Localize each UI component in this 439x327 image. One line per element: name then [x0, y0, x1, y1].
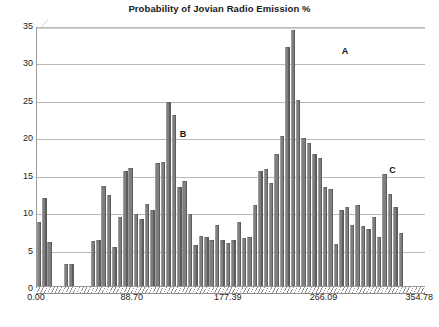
jovian-radio-emission-chart: Probability of Jovian Radio Emission % 0…: [0, 0, 439, 327]
bar: [291, 30, 296, 289]
bar: [101, 186, 106, 289]
bar-top-face: [389, 194, 393, 195]
plot-area: [36, 27, 425, 289]
bar: [264, 169, 269, 289]
bar: [226, 243, 231, 289]
bar: [42, 198, 47, 289]
bar: [318, 158, 323, 289]
bar-top-face: [238, 222, 242, 223]
bar: [182, 181, 187, 289]
bar-top-face: [308, 143, 312, 144]
bar-top-face: [265, 169, 269, 170]
bar: [328, 189, 333, 289]
bar: [307, 143, 312, 289]
bar: [377, 237, 382, 289]
bar: [134, 214, 139, 289]
bar: [112, 247, 117, 289]
bar: [350, 225, 355, 289]
x-axis-tick-label: 88.70: [121, 292, 144, 302]
bar: [177, 187, 182, 289]
bar-top-face: [243, 238, 247, 239]
bar-top-face: [38, 222, 42, 223]
bar: [399, 233, 404, 289]
bar: [150, 210, 155, 289]
bar-top-face: [351, 225, 355, 226]
bar-top-face: [113, 247, 117, 248]
bar-top-face: [302, 138, 306, 139]
bar-top-face: [140, 219, 144, 220]
bar-top-face: [297, 100, 301, 101]
bar-top-face: [340, 210, 344, 211]
bar: [372, 217, 377, 289]
bar: [242, 238, 247, 289]
y-axis-tick-label: 15: [3, 171, 33, 181]
x-axis-tick-label: 177.39: [214, 292, 242, 302]
bar: [253, 205, 258, 289]
y-axis-tick-label: 35: [3, 21, 33, 31]
bar-top-face: [281, 136, 285, 137]
bar: [269, 183, 274, 289]
bar-top-face: [129, 168, 133, 169]
bar: [188, 214, 193, 289]
bar-top-face: [156, 163, 160, 164]
bar: [215, 225, 220, 289]
bar: [334, 244, 339, 289]
bar-top-face: [162, 162, 166, 163]
bar-top-face: [221, 240, 225, 241]
bar: [285, 47, 290, 289]
bar: [301, 138, 306, 289]
bar-top-face: [119, 217, 123, 218]
x-axis-tick-label: 354.78: [406, 292, 434, 302]
bar-top-face: [183, 181, 187, 182]
bar-top-face: [216, 225, 220, 226]
peak-annotation-a: A: [342, 46, 349, 56]
bar-top-face: [378, 237, 382, 238]
bar-top-face: [108, 195, 112, 196]
bar-top-face: [43, 198, 47, 199]
bar: [123, 171, 128, 289]
bar-top-face: [97, 240, 101, 241]
bar-top-face: [65, 264, 69, 265]
bar: [339, 210, 344, 289]
bar-top-face: [48, 242, 52, 243]
bar-top-face: [178, 187, 182, 188]
bar: [361, 226, 366, 289]
peak-annotation-c: C: [389, 165, 396, 175]
bar: [237, 222, 242, 289]
bar-top-face: [189, 214, 193, 215]
bar: [199, 236, 204, 289]
bar: [355, 205, 360, 289]
bar-top-face: [227, 243, 231, 244]
bar-top-face: [286, 47, 290, 48]
bar-top-face: [92, 241, 96, 242]
bars-container: [36, 27, 425, 289]
bar-top-face: [319, 158, 323, 159]
bar-top-face: [292, 30, 296, 31]
bar: [312, 154, 317, 289]
bar: [345, 207, 350, 289]
bar-top-face: [394, 207, 398, 208]
y-axis-tick-label: 20: [3, 133, 33, 143]
bar-top-face: [346, 207, 350, 208]
bar-top-face: [275, 154, 279, 155]
bar: [118, 217, 123, 289]
bar-top-face: [400, 233, 404, 234]
bar-top-face: [248, 237, 252, 238]
bar-top-face: [167, 102, 171, 103]
y-axis-tick-label: 5: [3, 246, 33, 256]
bar-top-face: [335, 244, 339, 245]
bar: [193, 245, 198, 289]
y-axis: 05101520253035: [0, 27, 33, 289]
bar: [274, 154, 279, 289]
bar-top-face: [151, 210, 155, 211]
bar-top-face: [232, 240, 236, 241]
y-axis-tick-label: 25: [3, 96, 33, 106]
bar-top-face: [356, 205, 360, 206]
bar: [161, 162, 166, 289]
bar-top-face: [373, 217, 377, 218]
bar-top-face: [313, 154, 317, 155]
peak-annotation-b: B: [180, 129, 187, 139]
bar-top-face: [102, 186, 106, 187]
bar-top-face: [259, 171, 263, 172]
bar-top-face: [270, 183, 274, 184]
